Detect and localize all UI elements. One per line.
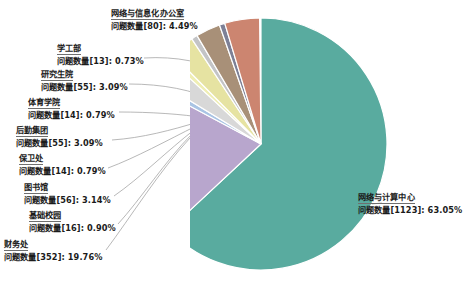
callout-tushuguan: 图书馆 问题数量[56]: 3.14% [24, 183, 111, 205]
callout-tiyu-name: 体育学院 [28, 98, 60, 109]
callout-yanjiusheng-value: 问题数量[55]: 3.09% [41, 83, 128, 93]
callout-caiwuchu: 财务处 问题数量[352]: 19.76% [4, 240, 103, 262]
callout-xuegongbu-name: 学工部 [57, 44, 81, 55]
pie-graphic [190, 18, 452, 270]
callout-tushuguan-value: 问题数量[56]: 3.14% [24, 196, 111, 206]
callout-baowei-name: 保卫处 [19, 154, 43, 165]
pie-slices [190, 18, 387, 270]
pie-chart-figure: 网络与信息化办公室 问题数量[80]: 4.49% 学工部 问题数量[13]: … [0, 0, 473, 287]
callout-jisuan-name: 网络与计算中心 [358, 193, 415, 204]
callout-houqin: 后勤集团 问题数量[55]: 3.09% [16, 126, 103, 148]
callout-caiwuchu-name: 财务处 [4, 240, 28, 251]
callout-baowei: 保卫处 问题数量[14]: 0.79% [19, 154, 106, 176]
pie-svg [190, 18, 452, 270]
callout-xuegongbu-value: 问题数量[13]: 0.73% [57, 57, 144, 67]
callout-jichu-value: 问题数量[16]: 0.90% [29, 224, 116, 234]
callout-tiyu-value: 问题数量[14]: 0.79% [28, 111, 115, 121]
callout-net-office: 网络与信息化办公室 问题数量[80]: 4.49% [111, 9, 198, 31]
callout-jisuan-value: 问题数量[1123]: 63.05% [358, 206, 462, 216]
callout-tushuguan-name: 图书馆 [24, 183, 48, 194]
callout-xuegongbu: 学工部 问题数量[13]: 0.73% [57, 44, 144, 66]
callout-jisuan: 网络与计算中心 问题数量[1123]: 63.05% [358, 193, 462, 215]
callout-tiyu: 体育学院 问题数量[14]: 0.79% [28, 98, 115, 120]
callout-houqin-value: 问题数量[55]: 3.09% [16, 139, 103, 149]
callout-jichu-name: 基础校园 [29, 211, 61, 222]
callout-jichu: 基础校园 问题数量[16]: 0.90% [29, 211, 116, 233]
callout-yanjiusheng: 研究生院 问题数量[55]: 3.09% [41, 70, 128, 92]
callout-houqin-name: 后勤集团 [16, 126, 48, 137]
callout-net-office-name: 网络与信息化办公室 [111, 9, 184, 20]
callout-yanjiusheng-name: 研究生院 [41, 70, 73, 81]
callout-baowei-value: 问题数量[14]: 0.79% [19, 167, 106, 177]
callout-caiwuchu-value: 问题数量[352]: 19.76% [4, 253, 103, 263]
callout-net-office-value: 问题数量[80]: 4.49% [111, 22, 198, 32]
